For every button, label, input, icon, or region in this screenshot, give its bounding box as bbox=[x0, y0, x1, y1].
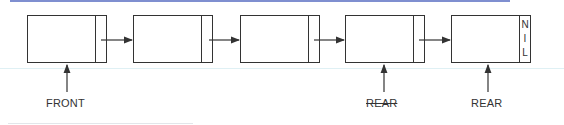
front-label: FRONT bbox=[46, 97, 85, 109]
rear-label: REAR bbox=[471, 97, 502, 109]
old-rear-label-struck: REAR bbox=[366, 97, 397, 109]
